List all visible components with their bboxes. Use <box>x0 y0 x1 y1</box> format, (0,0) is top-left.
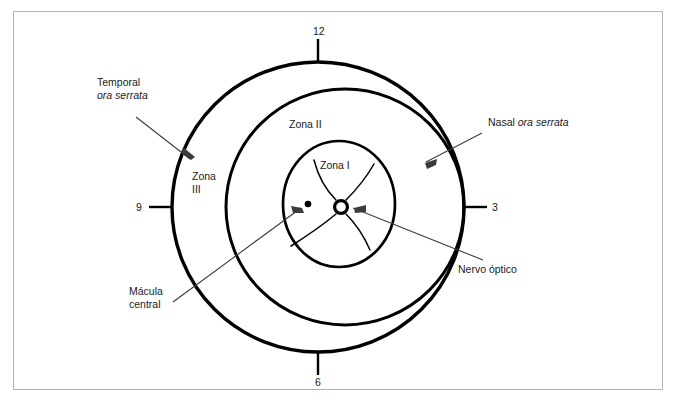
zone-circles <box>172 62 464 352</box>
temporal-line1: Temporal <box>97 76 148 89</box>
nasal-italic: ora serrata <box>518 116 569 128</box>
nasal-plain: Nasal <box>488 116 515 128</box>
retina-zone-diagram <box>14 12 662 389</box>
label-temporal-ora-serrata: Temporal ora serrata <box>97 76 148 102</box>
label-nasal-ora-serrata: Nasal ora serrata <box>488 116 569 129</box>
label-zona-iii: Zona III <box>192 170 216 196</box>
retinal-vessel-arcades <box>291 160 374 250</box>
macula-line1: Mácula <box>129 285 163 298</box>
clock-hour-6: 6 <box>315 376 321 388</box>
clock-hour-9: 9 <box>136 201 142 213</box>
clock-tick-marks <box>149 39 487 375</box>
zona-iii-line2: III <box>192 183 216 196</box>
optic-disc-icon <box>335 201 348 214</box>
macula-dot-icon <box>305 201 312 208</box>
vessel-inferior-nasal <box>346 214 370 250</box>
leader-macula-central <box>173 208 301 302</box>
arrowhead-nasal <box>425 159 437 169</box>
arrowhead-nervo-optico <box>354 205 366 213</box>
label-zona-i: Zona I <box>320 159 350 172</box>
arrowhead-macula <box>291 206 304 213</box>
temporal-line2: ora serrata <box>97 89 148 102</box>
clock-hour-12: 12 <box>313 25 325 37</box>
clock-hour-3: 3 <box>492 201 498 213</box>
arrowhead-temporal <box>181 148 195 160</box>
label-macula-central: Mácula central <box>129 285 163 311</box>
macula-line2: central <box>129 298 163 311</box>
vessel-superior-nasal <box>346 164 374 200</box>
label-nervo-optico: Nervo óptico <box>458 263 517 276</box>
vessel-inferior-temporal <box>291 214 336 246</box>
zona-iii-line1: Zona <box>192 170 216 183</box>
zone-iii-outer-circle <box>172 62 464 352</box>
label-zona-ii: Zona II <box>289 118 322 131</box>
figure-frame: Temporal ora serrata Nasal ora serrata M… <box>13 11 663 390</box>
